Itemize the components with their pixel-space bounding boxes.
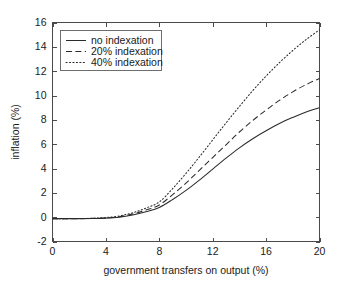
y-ticklabel-2: 2 (41, 186, 47, 198)
legend-label-40-indexation: 40% indexation (91, 56, 163, 68)
y-axis-tick-labels: -20246810121416 (35, 16, 47, 247)
x-axis-ticks-bottom (54, 238, 321, 242)
y-ticklabel-6: 6 (41, 138, 47, 150)
series-line-solid (53, 108, 320, 219)
x-ticklabel-8: 8 (156, 245, 162, 257)
y-ticklabel-16: 16 (35, 16, 47, 28)
x-axis-tick-labels: 048121620 (50, 245, 326, 257)
x-ticklabel-16: 16 (260, 245, 272, 257)
y-ticklabel-0: 0 (41, 211, 47, 223)
y-axis-ticks-right (316, 24, 320, 243)
series-line-dashed (53, 78, 320, 218)
y-ticklabel-10: 10 (35, 89, 47, 101)
chart-legend: no indexation 20% indexation 40% indexat… (61, 31, 163, 71)
y-ticklabel-12: 12 (35, 65, 47, 77)
x-axis-ticks-top (54, 23, 321, 27)
y-axis-ticks-left (53, 24, 57, 243)
y-ticklabel-8: 8 (41, 113, 47, 125)
y-axis-label: inflation (%) (9, 104, 21, 159)
chart-svg: 048121620 -20246810121416 government tra… (0, 0, 350, 291)
y-ticklabel-14: 14 (35, 40, 47, 52)
x-ticklabel-4: 4 (103, 245, 109, 257)
x-ticklabel-0: 0 (50, 245, 56, 257)
figure-canvas: 048121620 -20246810121416 government tra… (0, 0, 350, 291)
y-ticklabel--2: -2 (37, 235, 46, 247)
x-ticklabel-12: 12 (207, 245, 219, 257)
y-ticklabel-4: 4 (41, 162, 47, 174)
x-axis-label: government transfers on output (%) (103, 264, 268, 276)
x-ticklabel-20: 20 (314, 245, 326, 257)
